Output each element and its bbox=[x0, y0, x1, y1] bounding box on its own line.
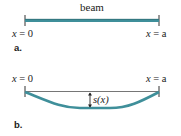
panel-b-label: b. bbox=[14, 119, 22, 130]
beam-label: beam bbox=[80, 1, 104, 13]
deflected-beam-curve bbox=[25, 92, 159, 108]
right-end-label-b: x = a bbox=[145, 73, 167, 84]
right-end-label: x = a bbox=[145, 28, 167, 39]
left-end-label: x = 0 bbox=[11, 28, 33, 39]
left-end-label-b: x = 0 bbox=[11, 73, 33, 84]
panel-a: beam x = 0 x = a a. bbox=[11, 1, 167, 53]
panel-b: x = 0 x = a s(x) b. bbox=[11, 73, 167, 130]
deflection-label: s(x) bbox=[93, 94, 109, 106]
beam-diagram: beam x = 0 x = a a. x = 0 x = a s(x) b. bbox=[0, 0, 181, 136]
deflection-arrow bbox=[88, 93, 92, 108]
panel-a-label: a. bbox=[14, 42, 22, 53]
